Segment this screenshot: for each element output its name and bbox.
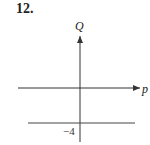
- graph: Q p −4: [0, 0, 150, 145]
- p-axis-label: p: [141, 82, 148, 96]
- q-axis-label: Q: [75, 19, 84, 33]
- tick-label-minus-4: −4: [63, 125, 75, 137]
